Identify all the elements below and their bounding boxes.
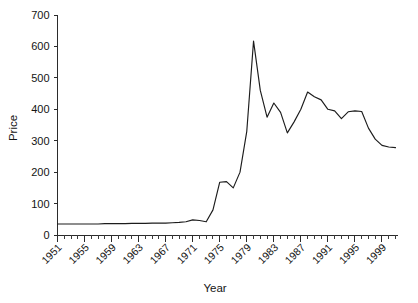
y-tick-label-300: 300 [31,135,49,147]
x-tick-label-1983: 1983 [255,241,280,266]
x-tick-label-1959: 1959 [93,241,118,266]
x-tick-label-1951: 1951 [39,241,64,266]
x-tick-label-1991: 1991 [309,241,334,266]
x-tick-label-1979: 1979 [228,241,253,266]
y-tick-label-0: 0 [43,229,49,241]
x-tick-label-1995: 1995 [336,241,361,266]
line-chart-plot: 0100200300400500600700 19511955195919631… [0,0,418,303]
axes-group [58,15,399,236]
y-tick-label-500: 500 [31,72,49,84]
price-series-line [58,41,396,224]
y-tick-label-group: 0100200300400500600700 [31,9,49,241]
y-tick-label-600: 600 [31,40,49,52]
x-tick-label-1971: 1971 [174,241,199,266]
x-tick-label-1999: 1999 [363,241,388,266]
y-tick-label-200: 200 [31,166,49,178]
x-tick-label-1987: 1987 [282,241,307,266]
x-tick-label-1975: 1975 [201,241,226,266]
x-tick-label-1963: 1963 [120,241,145,266]
y-tick-label-400: 400 [31,103,49,115]
chart-figure: 0100200300400500600700 19511955195919631… [0,0,418,303]
x-tick-label-1967: 1967 [147,241,172,266]
x-tick-major-group [58,235,382,242]
x-axis-title: Year [203,282,226,294]
y-tick-label-100: 100 [31,198,49,210]
y-tick-label-700: 700 [31,9,49,21]
x-tick-label-1955: 1955 [66,241,91,266]
y-tick-group [54,15,58,235]
y-axis-title: Price [7,115,19,141]
x-tick-label-group: 1951195519591963196719711975197919831987… [39,241,389,266]
x-axis-title-group: Year [203,282,226,294]
y-axis-title-group: Price [7,115,19,141]
